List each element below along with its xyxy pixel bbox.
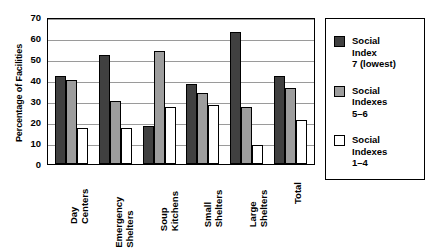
x-tick-label-line: Shelters xyxy=(214,190,225,228)
bar xyxy=(66,80,77,164)
x-tick-label-line: Shelters xyxy=(124,197,135,248)
y-tick-label: 20 xyxy=(17,118,41,127)
x-tick-group: EmergencyShelters xyxy=(92,167,136,247)
legend-label-line: 7 (lowest) xyxy=(352,58,396,70)
x-axis-tick-labels: DayCentersEmergencySheltersSoupKitchensS… xyxy=(47,167,315,247)
x-tick-label-line: Emergency xyxy=(114,197,125,248)
x-tick-label-line: Centers xyxy=(80,189,91,224)
x-tick-label-line: Soup xyxy=(159,191,170,231)
x-tick-label: LargeShelters xyxy=(248,190,269,228)
bar-group xyxy=(274,19,307,164)
legend-item[interactable]: SocialIndex7 (lowest) xyxy=(334,35,424,70)
bar xyxy=(285,88,296,164)
bar-groups xyxy=(48,19,314,164)
bar-group xyxy=(99,19,132,164)
y-tick-label: 40 xyxy=(17,76,41,85)
bar xyxy=(274,76,285,164)
x-tick-label-line: Large xyxy=(248,190,259,228)
bar xyxy=(241,107,252,164)
x-tick-group: SmallShelters xyxy=(181,167,225,247)
y-tick-label: 60 xyxy=(17,34,41,43)
y-tick-label: 0 xyxy=(17,160,41,169)
x-tick-label: Total xyxy=(293,182,304,204)
bar xyxy=(99,55,110,164)
bar xyxy=(252,145,263,164)
legend-label: SocialIndexes1–4 xyxy=(352,134,387,169)
x-tick-group: LargeShelters xyxy=(226,167,270,247)
x-tick-label-line: Shelters xyxy=(258,190,269,228)
legend-label-line: Social xyxy=(352,35,396,47)
x-tick-label: EmergencyShelters xyxy=(114,197,135,248)
bar xyxy=(77,128,88,164)
chart-legend: SocialIndex7 (lowest)SocialIndexes5–6Soc… xyxy=(325,18,425,180)
bar xyxy=(121,128,132,164)
bar xyxy=(230,32,241,164)
legend-label-line: Indexes xyxy=(352,146,387,158)
x-tick-group: DayCenters xyxy=(47,167,91,247)
legend-label-line: 1–4 xyxy=(352,157,387,169)
bar xyxy=(208,105,219,164)
legend-label-line: 5–6 xyxy=(352,108,387,120)
legend-swatch xyxy=(334,36,345,47)
x-tick-label-line: Kitchens xyxy=(169,191,180,231)
bar xyxy=(165,107,176,164)
plot-area xyxy=(47,18,315,165)
bar-group xyxy=(55,19,88,164)
bar xyxy=(154,51,165,164)
legend-label-line: Social xyxy=(352,85,387,97)
legend-label-line: Index xyxy=(352,47,396,59)
legend-swatch xyxy=(334,86,345,97)
legend-label: SocialIndexes5–6 xyxy=(352,85,387,120)
bar xyxy=(55,76,66,164)
bar xyxy=(296,120,307,164)
legend-swatch xyxy=(334,135,345,146)
bar xyxy=(143,126,154,164)
bar-group xyxy=(186,19,219,164)
y-tick-label: 30 xyxy=(17,97,41,106)
legend-label-line: Social xyxy=(352,134,387,146)
bar xyxy=(110,101,121,164)
bar-chart-figure: Percentage of Facilities 706050403020100… xyxy=(0,0,429,249)
legend-label: SocialIndex7 (lowest) xyxy=(352,35,396,70)
x-tick-label-line: Total xyxy=(293,182,304,204)
x-tick-label: DayCenters xyxy=(69,189,90,224)
bar-group xyxy=(230,19,263,164)
legend-item[interactable]: SocialIndexes5–6 xyxy=(334,85,424,120)
legend-label-line: Indexes xyxy=(352,96,387,108)
y-tick-label: 10 xyxy=(17,139,41,148)
y-tick-label: 50 xyxy=(17,55,41,64)
x-tick-label: SmallShelters xyxy=(203,190,224,228)
x-tick-label: SoupKitchens xyxy=(159,191,180,231)
bar xyxy=(197,93,208,164)
x-tick-group: SoupKitchens xyxy=(137,167,181,247)
bar-group xyxy=(143,19,176,164)
x-tick-group: Total xyxy=(271,167,315,247)
legend-item[interactable]: SocialIndexes1–4 xyxy=(334,134,424,169)
bar xyxy=(186,84,197,164)
y-tick-label: 70 xyxy=(17,13,41,22)
